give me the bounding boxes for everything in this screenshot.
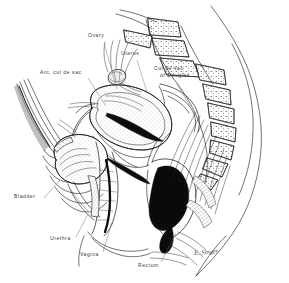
label-bladder: Bladder: [14, 193, 35, 199]
label-ovary: Ovary: [88, 32, 104, 38]
vertebra: [152, 38, 189, 57]
label-vagina: Vagina: [80, 251, 99, 257]
label-rectum: Rectum: [138, 262, 159, 268]
label-urethra: Urethra: [50, 235, 71, 241]
label-cul-de-sac-line1: Cul de sac: [154, 65, 190, 72]
label-uterus: Uterus: [121, 50, 139, 56]
label-ant-cul-de-sac: Ant. cul de sac: [40, 69, 82, 75]
label-cul-de-sac-of-douglas: Cul de sac of Douglas: [154, 65, 190, 78]
pelvis-sagittal-drawing: [0, 0, 289, 283]
anatomical-figure: Ovary Uterus Ant. cul de sac Cul de sac …: [0, 0, 289, 283]
label-cul-de-sac-line2: of Douglas: [160, 72, 190, 79]
